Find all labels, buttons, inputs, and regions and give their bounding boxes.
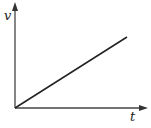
velocity-line [15, 37, 127, 108]
velocity-time-graph [0, 0, 151, 128]
x-axis-label: t [130, 110, 135, 123]
x-axis-arrow-icon [139, 105, 148, 111]
y-axis-label: v [4, 9, 11, 22]
y-axis-arrow-icon [12, 2, 18, 11]
